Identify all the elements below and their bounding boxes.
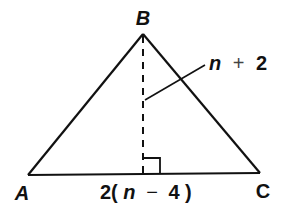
triangle-diagram: B A C n + 2 2( n − 4 ) — [0, 0, 293, 203]
base-label-suffix: ) — [185, 181, 192, 203]
side-ac-base — [28, 173, 260, 175]
altitude-label-var: n — [209, 52, 221, 74]
altitude-label: n + 2 — [209, 52, 267, 74]
right-angle-marker — [143, 158, 160, 174]
base-label-op: − — [146, 181, 158, 203]
base-label-prefix: 2( — [100, 181, 118, 203]
altitude-leader-line — [145, 65, 205, 100]
base-label-var: n — [123, 181, 135, 203]
base-label: 2( n − 4 ) — [100, 181, 192, 203]
altitude-label-op: + — [233, 52, 245, 74]
vertex-label-b: B — [136, 7, 150, 29]
side-ab — [28, 34, 143, 175]
vertex-label-c: C — [256, 180, 270, 202]
base-label-num: 4 — [168, 181, 180, 203]
vertex-label-a: A — [14, 182, 29, 203]
altitude-label-num: 2 — [256, 52, 267, 74]
